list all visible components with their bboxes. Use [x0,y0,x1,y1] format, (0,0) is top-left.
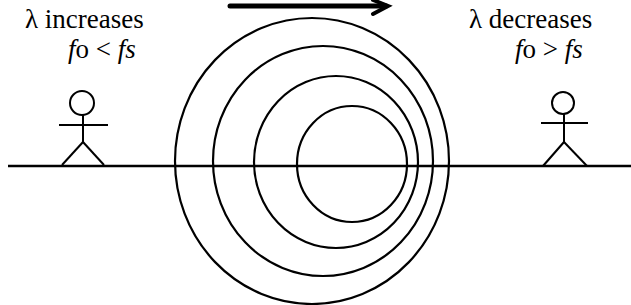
left-wavelength-text: λ increases [25,4,144,34]
right-frequency-relation: fo > fs [469,34,592,64]
left-frequency-relation: fo < fs [25,34,144,64]
right-observer-figure-icon [541,92,588,166]
wavefront-4 [297,106,407,222]
wavefront-2 [213,46,433,276]
wavefront-3 [254,76,418,248]
motion-arrow-icon [230,0,388,14]
right-wavelength-text: λ decreases [469,4,592,34]
lambda-symbol: λ [469,4,482,34]
lambda-symbol: λ [25,4,38,34]
left-observer-label: λ increases fo < fs [25,4,144,64]
wavefronts [175,18,449,304]
left-observer-figure-icon [59,91,108,165]
right-observer-label: λ decreases fo > fs [469,4,592,64]
